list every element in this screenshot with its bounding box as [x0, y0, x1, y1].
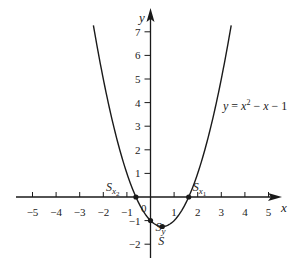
y-tick-label: 3	[135, 120, 141, 132]
ticks: −5−4−3−2−112345−2−11234567	[27, 26, 272, 250]
y-tick-label: 1	[135, 167, 141, 179]
x-tick-label: −3	[74, 206, 86, 218]
x-tick-label: 3	[219, 206, 225, 218]
y-tick-label: 2	[135, 144, 141, 156]
y-tick-label: 5	[135, 73, 141, 85]
parabola-curve	[93, 25, 231, 226]
point-s	[160, 224, 165, 229]
x-axis-label: x	[280, 200, 287, 215]
x-tick-label: 1	[171, 206, 177, 218]
y-tick-label: 7	[135, 26, 141, 38]
parabola-chart: −5−4−3−2−112345−2−11234567 Sx2Sx1SyS x y…	[0, 0, 301, 261]
x-tick-label: −4	[50, 206, 62, 218]
point-s-x2	[133, 194, 138, 199]
x-tick-label: −5	[27, 206, 39, 218]
point-label-s-x1: Sx1	[193, 180, 207, 198]
point-label-s-x2: Sx2	[106, 180, 120, 198]
x-tick-label: 4	[242, 206, 248, 218]
equation-label: y = x2 − x − 1	[222, 98, 287, 113]
y-tick-label: 4	[135, 97, 141, 109]
y-tick-label: −1	[129, 215, 141, 227]
origin-label: 0	[141, 202, 147, 214]
point-s-x1	[186, 194, 191, 199]
point-label-s: S	[158, 234, 164, 248]
x-tick-label: 2	[195, 206, 201, 218]
x-tick-label: −2	[97, 206, 109, 218]
y-tick-label: 6	[135, 49, 141, 61]
point-s-y	[148, 218, 153, 223]
x-tick-label: 5	[266, 206, 272, 218]
y-tick-label: −2	[129, 238, 141, 250]
y-axis-label: y	[137, 10, 145, 25]
